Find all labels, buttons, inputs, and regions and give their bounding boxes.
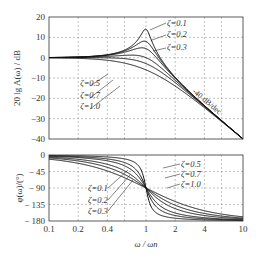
x-tick: 10 <box>239 224 249 234</box>
bode-chart: 20100−10−20−30−40 0− 45− 90− 135− 180 0.… <box>0 0 261 266</box>
y-tick: − 180 <box>24 216 45 226</box>
phase-y-ticks: 0− 45− 90− 135− 180 <box>24 150 45 226</box>
label-zeta-0.1-mag: ζ=0.1 <box>167 18 187 28</box>
y-tick: − 135 <box>24 200 45 210</box>
y-tick: 20 <box>36 12 46 22</box>
x-tick: 1 <box>144 224 149 234</box>
label-zeta-1.0-mag: ζ=1.0 <box>80 101 101 111</box>
y-tick: −20 <box>31 93 46 103</box>
x-tick: 0.2 <box>73 224 84 234</box>
label-zeta-0.7-ph: ζ=0.7 <box>181 169 202 179</box>
magnitude-grid <box>49 17 243 139</box>
x-tick: 0.1 <box>43 224 54 234</box>
label-zeta-1.0-ph: ζ=1.0 <box>181 179 202 189</box>
magnitude-y-ticks: 20100−10−20−30−40 <box>31 12 46 144</box>
y-tick: −40 <box>31 134 46 144</box>
label-zeta-0.7-mag: ζ=0.7 <box>80 90 101 100</box>
x-tick: 0.4 <box>102 224 114 234</box>
y-tick: 10 <box>36 32 46 42</box>
label-zeta-0.1-ph: ζ=0.1 <box>88 183 108 193</box>
y-tick: −10 <box>31 73 46 83</box>
y-tick: −30 <box>31 114 46 124</box>
label-zeta-0.5-mag: ζ=0.5 <box>80 78 100 88</box>
y-tick: − 45 <box>29 167 46 177</box>
y-tick: − 90 <box>29 183 46 193</box>
y-tick: 0 <box>41 150 46 160</box>
x-ticks: 0.10.20.412410 <box>43 224 248 234</box>
x-axis-label: ω / ωn <box>135 239 158 249</box>
label-zeta-0.2-mag: ζ=0.2 <box>167 29 188 39</box>
magnitude-y-label: 20 lg A(ω) / dB <box>12 50 22 106</box>
x-tick: 2 <box>173 224 178 234</box>
label-zeta-0.3-ph: ζ=0.3 <box>88 206 108 216</box>
label-zeta-0.3-mag: ζ=0.3 <box>167 42 187 52</box>
x-tick: 4 <box>202 224 207 234</box>
phase-y-label: φ(ω)/(°) <box>14 173 24 202</box>
label-zeta-0.5-ph: ζ=0.5 <box>181 159 201 169</box>
slope-annotation: -40 dB/dec <box>191 87 224 117</box>
label-zeta-0.2-ph: ζ=0.2 <box>88 195 109 205</box>
y-tick: 0 <box>41 53 46 63</box>
